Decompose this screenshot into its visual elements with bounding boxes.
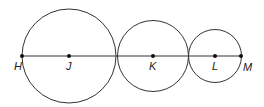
- point-k: [151, 54, 155, 58]
- tangent-circles-diagram: H J K L M: [0, 0, 264, 107]
- label-l: L: [212, 60, 218, 72]
- label-k: K: [149, 60, 157, 72]
- label-j: J: [65, 60, 72, 72]
- label-h: H: [14, 60, 22, 72]
- point-j: [67, 54, 71, 58]
- point-m: [239, 54, 243, 58]
- label-m: M: [243, 61, 253, 73]
- point-l: [213, 54, 217, 58]
- point-h: [20, 54, 24, 58]
